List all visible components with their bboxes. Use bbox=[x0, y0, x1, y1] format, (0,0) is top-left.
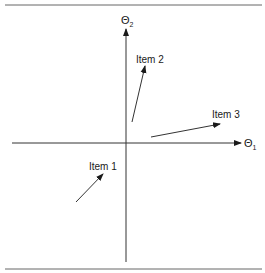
theta2-axis-label: Θ2 bbox=[121, 14, 134, 28]
theta1-axis-label: Θ1 bbox=[244, 137, 257, 151]
item-2-label: Item 2 bbox=[136, 54, 164, 65]
vector-diagram: Θ2 Θ1 Item 2 Item 3 Item 1 bbox=[0, 0, 265, 273]
item-3-vector bbox=[151, 124, 220, 137]
item-1-label: Item 1 bbox=[89, 161, 117, 172]
item-2-vector bbox=[132, 66, 145, 122]
item-3-label: Item 3 bbox=[212, 109, 240, 120]
item-1-vector bbox=[76, 174, 103, 202]
